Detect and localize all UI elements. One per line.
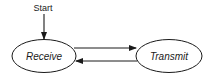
state-transmit: Transmit <box>136 40 202 73</box>
receive-label: Receive <box>26 51 63 62</box>
start-label: Start <box>33 3 53 13</box>
state-diagram: Start Receive Transmit <box>0 0 211 76</box>
transmit-label: Transmit <box>150 51 189 62</box>
state-receive: Receive <box>12 40 76 73</box>
